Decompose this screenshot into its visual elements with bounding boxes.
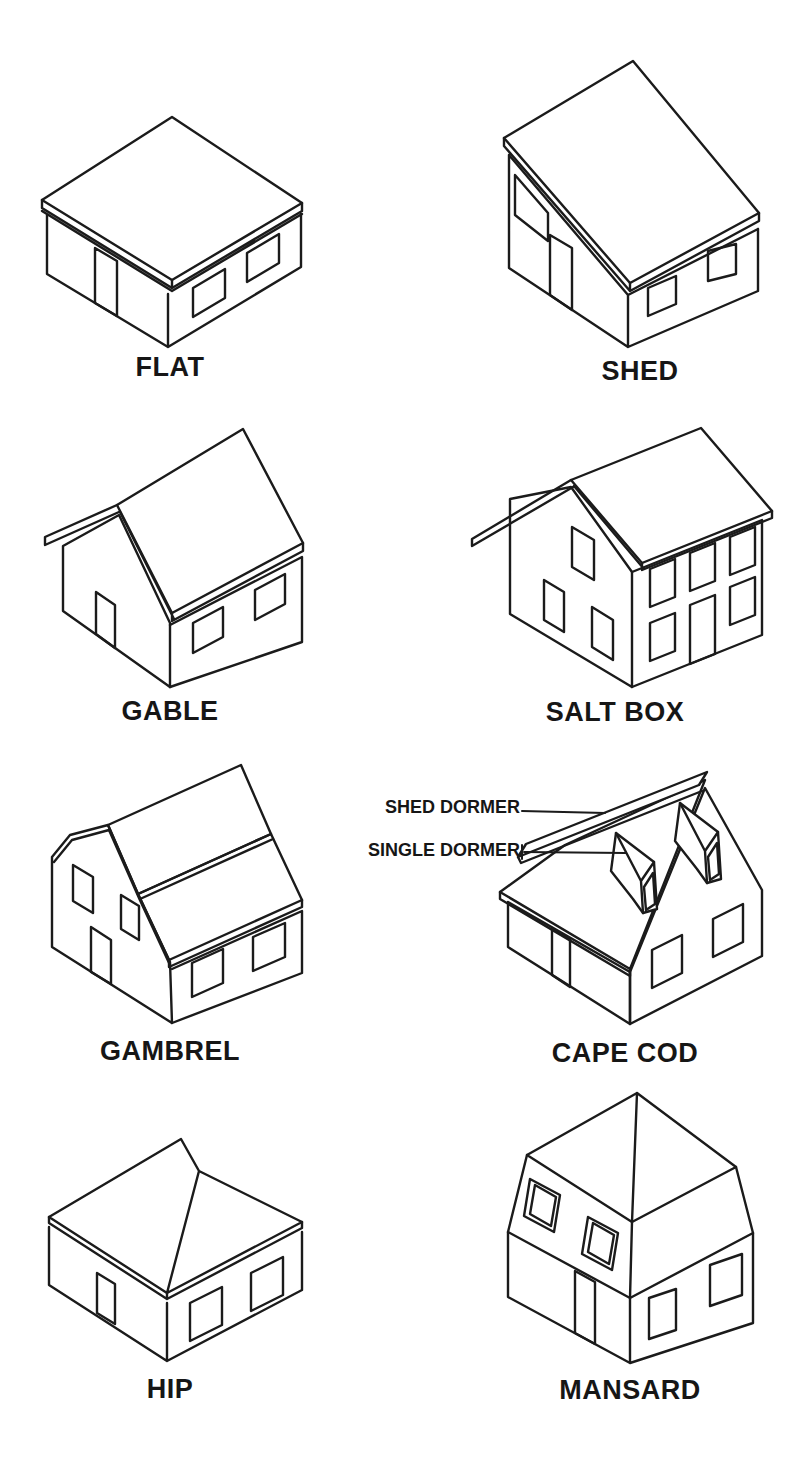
saltbox-window — [592, 607, 613, 660]
salt-box-roof-label: SALT BOX — [450, 697, 780, 728]
gambrel-door — [91, 927, 111, 984]
gambrel-roof-house-drawing — [25, 755, 315, 1075]
gambrel-window — [73, 865, 93, 913]
shed-walls — [509, 155, 758, 347]
hip-roof-label: HIP — [25, 1374, 315, 1405]
flat-roof-fascia — [42, 200, 302, 291]
flat-roof-house-drawing — [25, 95, 315, 360]
gable-roof-slope — [117, 429, 303, 613]
shed-roof — [504, 61, 759, 283]
gambrel-knee-trim — [140, 839, 273, 899]
shed-window — [515, 175, 548, 241]
gambrel-roof-label: GAMBREL — [25, 1036, 315, 1067]
salt-box-house-drawing — [450, 415, 780, 725]
saltbox-window — [572, 527, 594, 580]
gambrel-upper-slope — [108, 765, 271, 894]
saltbox-window — [730, 577, 755, 625]
figure-gable: GABLE — [25, 415, 315, 725]
shed-roof-label: SHED — [480, 356, 800, 387]
capecod-front-slope — [500, 780, 705, 969]
shed-roof-fascia — [504, 138, 759, 291]
gambrel-end-wall — [52, 825, 172, 1023]
cape-cod-roof-label: CAPE COD — [470, 1038, 780, 1069]
shed-dormer-leader-line — [522, 811, 605, 813]
mansard-window — [710, 1254, 742, 1306]
gable-roof-label: GABLE — [25, 696, 315, 727]
figure-flat: FLAT — [25, 95, 315, 395]
roof-types-diagram: FLAT SHED GABLE — [0, 0, 807, 1469]
single-dormer-callout: SINGLE DORMER — [360, 839, 520, 861]
gable-roof-left-sliver — [45, 505, 119, 545]
hip-window — [190, 1287, 222, 1341]
figure-shed: SHED — [480, 45, 800, 390]
shed-window — [708, 244, 736, 281]
figure-hip: HIP — [25, 1125, 315, 1415]
gambrel-window — [192, 949, 223, 997]
hip-roof — [49, 1139, 302, 1293]
capecod-window — [713, 904, 743, 957]
flat-roof-label: FLAT — [25, 352, 315, 383]
saltbox-window — [544, 580, 564, 632]
gambrel-lower-slope — [138, 834, 302, 960]
capecod-door — [552, 928, 570, 987]
capecod-single-dormer — [675, 803, 721, 883]
gable-roof-house-drawing — [25, 415, 315, 715]
shed-dormer-callout: SHED DORMER — [360, 796, 520, 818]
mansard-roof-house-drawing — [480, 1085, 780, 1375]
figure-cape-cod: SHED DORMER SINGLE DORMER CAPE COD — [360, 760, 780, 1070]
figure-gambrel: GAMBREL — [25, 755, 315, 1075]
gambrel-window — [121, 895, 139, 940]
saltbox-window — [650, 613, 675, 661]
saltbox-roof-slope — [571, 428, 772, 563]
shed-roof-house-drawing — [480, 45, 800, 375]
gable-end-wall — [63, 515, 170, 687]
figure-salt-box: SALT BOX — [450, 415, 780, 727]
mansard-door — [575, 1271, 595, 1344]
flat-door — [95, 248, 117, 316]
gable-door — [96, 592, 115, 648]
figure-mansard: MANSARD — [480, 1085, 780, 1415]
gable-window — [255, 574, 285, 620]
gable-window — [193, 607, 223, 653]
saltbox-door — [690, 595, 715, 664]
flat-roof — [42, 117, 302, 280]
hip-roof-house-drawing — [25, 1125, 315, 1375]
mansard-roof-label: MANSARD — [480, 1375, 780, 1406]
mansard-window — [649, 1289, 676, 1339]
capecod-window — [652, 935, 682, 988]
